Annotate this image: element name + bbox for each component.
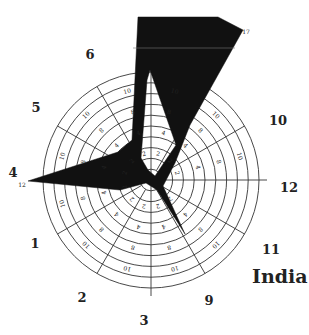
- ring-tick-label: 8: [79, 159, 87, 165]
- ring-tick-label: 2: [155, 203, 161, 211]
- ring-tick-label: 4: [161, 129, 167, 137]
- axis-label-10: 10: [269, 113, 287, 128]
- ring-tick-label: 8: [97, 126, 105, 134]
- ring-tick-label: 10: [122, 86, 131, 95]
- ring-tick-label: 8: [166, 244, 172, 252]
- axis-label-1: 1: [30, 236, 39, 251]
- ring-tick-label: 4: [135, 223, 141, 231]
- axis-label-4: 4: [8, 165, 17, 180]
- ring-tick-label: 2: [155, 150, 161, 158]
- axis-label-11: 11: [262, 242, 280, 257]
- ring-tick-label: 2: [141, 149, 147, 157]
- radar-chart: 2481024810248102481024810248102481024810…: [0, 0, 309, 335]
- axis-label-5: 5: [31, 100, 40, 115]
- axis-label-6: 6: [85, 47, 94, 62]
- ring-tick-label: 8: [197, 126, 205, 134]
- axis-label-2: 2: [77, 290, 86, 305]
- ring-tick-label: 2: [128, 196, 136, 204]
- ring-tick-label: 4: [182, 211, 190, 219]
- ring-tick-label: 8: [97, 226, 105, 234]
- ring-tick-label: 8: [197, 226, 205, 234]
- ring-tick-label: 2: [141, 203, 147, 211]
- ring-tick-label: 4: [100, 190, 108, 196]
- extra-tick-label: 17: [242, 28, 250, 35]
- extra-tick-label: 12: [18, 181, 26, 188]
- chart-title: India: [252, 265, 308, 287]
- axis-label-12: 12: [280, 180, 298, 195]
- axis-label-3: 3: [139, 313, 148, 328]
- ring-tick-label: 8: [215, 159, 223, 165]
- ring-tick-label: 4: [195, 165, 203, 171]
- ring-tick-label: 4: [112, 141, 120, 149]
- ring-tick-label: 10: [122, 265, 131, 274]
- axis-label-9: 9: [204, 293, 213, 308]
- ring-tick-label: 10: [170, 265, 179, 274]
- ring-tick-label: 10: [57, 199, 66, 208]
- ring-tick-label: 8: [130, 244, 136, 252]
- ring-tick-label: 10: [236, 151, 245, 160]
- ring-tick-label: 8: [79, 195, 87, 201]
- ring-tick-label: 4: [161, 224, 167, 232]
- ring-tick-label: 10: [57, 151, 66, 160]
- ring-tick-label: 2: [174, 170, 182, 176]
- ring-tick-label: 4: [112, 211, 120, 219]
